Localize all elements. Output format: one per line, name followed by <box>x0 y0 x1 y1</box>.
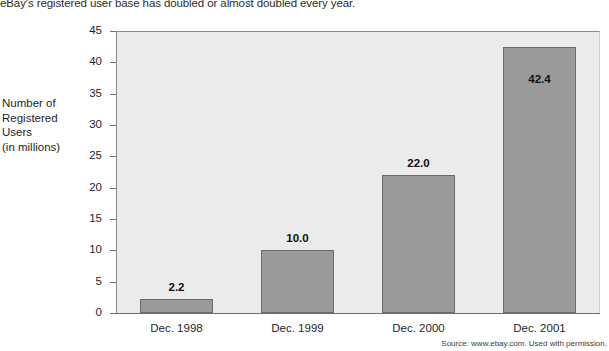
y-axis-tick-mark <box>110 282 116 283</box>
x-axis-category-label: Dec. 2000 <box>358 322 479 334</box>
x-axis-category-label: Dec. 1999 <box>237 322 358 334</box>
y-axis-tick-label: 0 <box>0 307 110 319</box>
y-axis-tick-label: 5 <box>0 276 110 288</box>
y-axis-tick-mark <box>110 313 116 314</box>
y-axis-tick-mark <box>110 188 116 189</box>
x-axis-category-label: Dec. 2001 <box>479 322 600 334</box>
bar-value-label: 22.0 <box>362 157 475 169</box>
y-axis-tick-mark <box>110 125 116 126</box>
source-note: Source: www.ebay.com. Used with permissi… <box>441 339 607 348</box>
y-axis-tick-label: 40 <box>0 56 110 68</box>
bar <box>382 175 455 313</box>
y-axis-tick-label: 35 <box>0 88 110 100</box>
bar-value-label: 42.4 <box>483 73 596 85</box>
y-axis-tick-mark <box>110 250 116 251</box>
chart-headline: eBay's registered user base has doubled … <box>0 0 609 10</box>
bar-value-label: 2.2 <box>120 281 233 293</box>
bar <box>140 299 213 313</box>
bar <box>261 250 334 313</box>
y-axis-tick-mark <box>110 94 116 95</box>
y-axis-tick-label: 45 <box>0 25 110 37</box>
y-axis-tick-label: 15 <box>0 213 110 225</box>
y-axis-tick-label: 25 <box>0 150 110 162</box>
y-axis-tick-label: 20 <box>0 182 110 194</box>
y-axis-tick-mark <box>110 62 116 63</box>
y-axis-tick-label: 10 <box>0 244 110 256</box>
y-axis-tick-mark <box>110 219 116 220</box>
bar-value-label: 10.0 <box>241 232 354 244</box>
x-axis-line <box>110 313 600 314</box>
y-axis-tick-mark <box>110 31 116 32</box>
bar <box>503 47 576 313</box>
y-axis-tick-mark <box>110 156 116 157</box>
x-axis-category-label: Dec. 1998 <box>116 322 237 334</box>
y-axis-tick-label: 30 <box>0 119 110 131</box>
